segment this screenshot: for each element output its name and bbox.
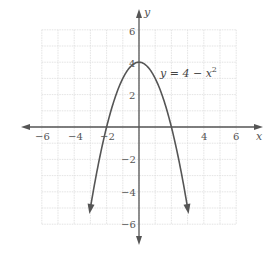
curve-left-arrow-icon (88, 203, 95, 213)
axes: y x (21, 6, 263, 245)
curve-right-arrow-icon (183, 203, 190, 213)
x-axis-label: x (256, 130, 263, 143)
x-axis-left-arrow-icon (21, 124, 30, 130)
x-tick-label: −2 (100, 131, 115, 142)
y-tick-label: 2 (129, 90, 135, 101)
y-axis-down-arrow-icon (136, 236, 142, 245)
y-axis-up-arrow-icon (136, 9, 142, 18)
y-axis-label: y (143, 6, 151, 19)
y-tick-label: −4 (121, 187, 136, 198)
x-tick-label: 4 (201, 131, 207, 142)
y-tick-label: 6 (129, 26, 135, 37)
equation-label: y = 4 − x2 (159, 65, 217, 80)
parabola-chart: y x −6 −4 −2 4 6 6 4 2 −2 −4 −6 y = 4 − … (0, 0, 279, 256)
y-tick-label: −6 (121, 219, 136, 230)
y-tick-label: −2 (121, 154, 136, 165)
x-tick-label: −4 (68, 131, 83, 142)
tick-labels: −6 −4 −2 4 6 6 4 2 −2 −4 −6 (35, 26, 239, 230)
x-tick-label: −6 (35, 131, 50, 142)
x-tick-label: 6 (233, 131, 239, 142)
